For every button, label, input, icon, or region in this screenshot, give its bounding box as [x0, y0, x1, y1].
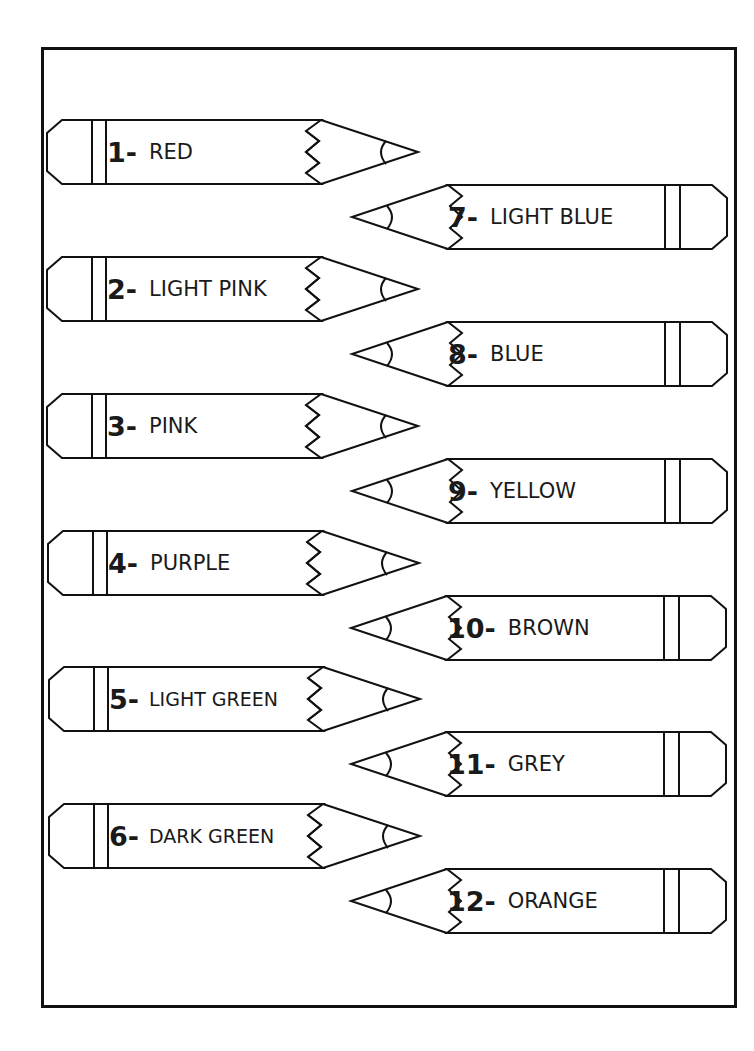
- pencil-left-icon: [46, 119, 426, 185]
- pencil-color-name: RED: [149, 140, 193, 164]
- pencil-number: 6-: [109, 821, 139, 852]
- pencil-4[interactable]: 4- PURPLE: [47, 530, 427, 596]
- pencil-left-icon: [47, 530, 427, 596]
- pencil-color-name: LIGHT BLUE: [490, 205, 613, 229]
- pencil-3[interactable]: 3- PINK: [46, 393, 426, 459]
- pencil-color-name: DARK GREEN: [149, 825, 274, 847]
- pencil-color-name: PINK: [149, 414, 197, 438]
- pencil-label: 6- DARK GREEN: [109, 803, 274, 869]
- pencil-color-name: BLUE: [490, 342, 544, 366]
- pencil-1[interactable]: 1- RED: [46, 119, 426, 185]
- pencil-label: 7- LIGHT BLUE: [448, 184, 613, 250]
- pencil-color-name: GREY: [508, 752, 565, 776]
- pencil-number: 9-: [448, 476, 478, 507]
- pencil-number: 7-: [448, 202, 478, 233]
- pencil-2[interactable]: 2- LIGHT PINK: [46, 256, 426, 322]
- pencil-6[interactable]: 6- DARK GREEN: [48, 803, 428, 869]
- pencil-label: 2- LIGHT PINK: [107, 256, 267, 322]
- pencil-number: 8-: [448, 339, 478, 370]
- pencil-left-icon: [46, 393, 426, 459]
- pencil-12[interactable]: 12- ORANGE: [349, 868, 729, 934]
- pencil-5[interactable]: 5- LIGHT GREEN: [48, 666, 428, 732]
- pencil-label: 11- GREY: [447, 731, 565, 797]
- pencil-label: 5- LIGHT GREEN: [109, 666, 278, 732]
- pencil-number: 10-: [447, 613, 496, 644]
- pencil-8[interactable]: 8- BLUE: [350, 321, 730, 387]
- pencil-label: 9- YELLOW: [448, 458, 576, 524]
- pencil-number: 3-: [107, 411, 137, 442]
- pencil-label: 12- ORANGE: [447, 868, 598, 934]
- pencil-number: 2-: [107, 274, 137, 305]
- pencil-label: 10- BROWN: [447, 595, 590, 661]
- pencil-label: 3- PINK: [107, 393, 197, 459]
- pencil-number: 12-: [447, 886, 496, 917]
- pencil-label: 4- PURPLE: [108, 530, 230, 596]
- pencil-10[interactable]: 10- BROWN: [349, 595, 729, 661]
- pencil-9[interactable]: 9- YELLOW: [350, 458, 730, 524]
- pencil-color-name: YELLOW: [490, 479, 576, 503]
- pencil-color-name: LIGHT GREEN: [149, 688, 278, 710]
- pencil-11[interactable]: 11- GREY: [349, 731, 729, 797]
- pencil-label: 1- RED: [107, 119, 193, 185]
- pencil-number: 5-: [109, 684, 139, 715]
- pencil-color-name: ORANGE: [508, 889, 598, 913]
- pencil-color-name: BROWN: [508, 616, 590, 640]
- pencil-number: 1-: [107, 137, 137, 168]
- pencil-number: 4-: [108, 548, 138, 579]
- pencil-color-name: PURPLE: [150, 551, 230, 575]
- pencil-number: 11-: [447, 749, 496, 780]
- pencil-label: 8- BLUE: [448, 321, 544, 387]
- pencil-color-name: LIGHT PINK: [149, 277, 267, 301]
- pencil-7[interactable]: 7- LIGHT BLUE: [350, 184, 730, 250]
